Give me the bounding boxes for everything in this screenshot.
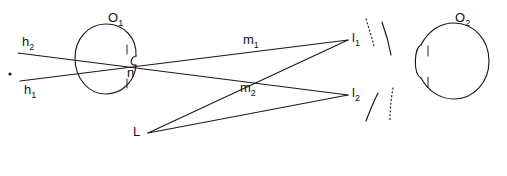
label-ray-h1: h1 [24, 83, 36, 100]
label-ray-h2: h2 [22, 35, 34, 52]
label-node-n: n [127, 66, 134, 79]
label-ray-m1: m1 [243, 33, 259, 50]
circle-o1-notch [131, 56, 136, 65]
label-object-o1: O1 [108, 11, 123, 28]
label-ray-m2: m2 [240, 81, 256, 98]
label-vertex-L: L [133, 125, 140, 138]
wavefront-arc-dotted-lower [390, 88, 393, 120]
label-object-o2: O2 [455, 11, 470, 28]
ray-h2-line [18, 53, 348, 95]
label-point-l1: l1 [352, 31, 360, 48]
ray-h1-line [20, 40, 348, 81]
wavefront-arc-dotted-upper [366, 19, 374, 46]
label-point-l2: l2 [352, 86, 360, 103]
left-reference-dot [8, 72, 11, 75]
circle-o2-notch [415, 45, 421, 78]
circle-o2-outline [421, 23, 489, 99]
ray-L-to-l2 [148, 95, 348, 133]
wavefront-arc-solid-lower [366, 93, 378, 121]
wavefront-arc-solid-upper [382, 22, 391, 55]
ray-diagram-figure: O1 n h2 h1 m1 m2 l1 l2 L O2 [0, 0, 507, 176]
